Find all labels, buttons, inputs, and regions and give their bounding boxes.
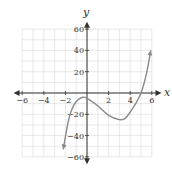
y-axis-arrow-up-icon <box>84 22 90 28</box>
x-tick-label: −4 <box>38 96 50 105</box>
x-tick-label: 4 <box>128 96 133 105</box>
x-tick-label: −2 <box>60 96 72 105</box>
y-tick-label: −40 <box>67 132 84 141</box>
y-tick-label: −60 <box>67 153 84 162</box>
cubic-function-graph: −6−4−2246604020−20−40−60 x y <box>0 0 172 169</box>
x-axis-arrow-right-icon <box>156 90 162 96</box>
curve-start-arrow-icon <box>62 144 67 149</box>
x-tick-label: 6 <box>149 96 154 105</box>
y-axis-label: y <box>82 6 90 19</box>
y-tick-label: 20 <box>74 68 84 77</box>
x-axis-label: x <box>164 86 171 99</box>
x-tick-label: 2 <box>106 96 111 105</box>
y-axis-arrow-down-icon <box>84 158 90 164</box>
y-tick-label: 40 <box>74 46 84 55</box>
x-tick-label: −6 <box>16 96 28 105</box>
y-tick-label: 60 <box>74 25 84 34</box>
axes <box>14 22 162 165</box>
